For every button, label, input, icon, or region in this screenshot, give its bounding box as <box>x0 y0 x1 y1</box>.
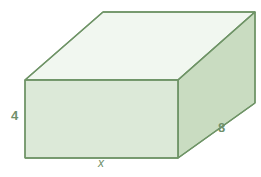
dimension-label-height: 4 <box>11 109 18 122</box>
rectangular-prism-figure: 4 8 x <box>0 0 261 177</box>
dimension-label-depth: 8 <box>218 121 225 134</box>
dimension-label-width: x <box>98 157 104 169</box>
prism-drawing <box>0 0 261 177</box>
front-face <box>25 80 178 158</box>
